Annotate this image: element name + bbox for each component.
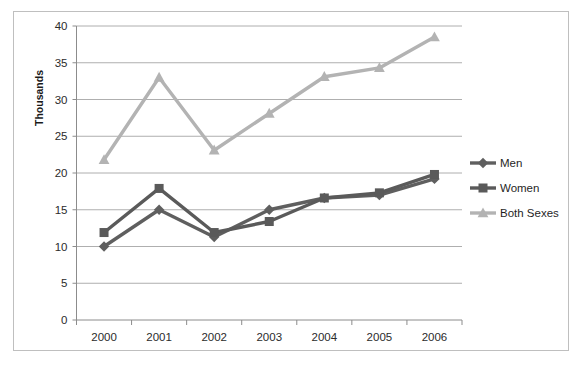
x-axis-tick-labels: 2000200120022003200420052006 — [91, 331, 447, 343]
x-tick-label: 2004 — [312, 331, 338, 343]
gridlines — [77, 26, 463, 283]
data-series — [99, 31, 440, 251]
x-tick-label: 2001 — [146, 331, 172, 343]
series-both-sexes — [99, 31, 440, 164]
y-tick-label: 20 — [55, 167, 68, 179]
y-axis-title-text: Thousands — [33, 70, 45, 126]
legend-label: Women — [500, 182, 539, 194]
series-men — [99, 174, 440, 252]
x-tick-label: 2002 — [201, 331, 227, 343]
y-tick-label: 0 — [61, 314, 67, 326]
legend-item-women[interactable]: Women — [470, 182, 539, 194]
data-point-marker — [154, 72, 165, 82]
data-point-marker — [320, 193, 329, 202]
x-tick-label: 2003 — [256, 331, 282, 343]
x-tick-label: 2006 — [422, 331, 448, 343]
data-point-marker — [375, 188, 384, 197]
data-point-marker — [429, 31, 440, 41]
y-tick-label: 25 — [55, 130, 68, 142]
y-tick-label: 30 — [55, 94, 68, 106]
y-tick-label: 15 — [55, 204, 68, 216]
y-tick-label: 10 — [55, 241, 68, 253]
data-point-marker — [265, 217, 274, 226]
data-point-marker — [155, 184, 164, 193]
data-point-marker — [100, 228, 109, 237]
legend-item-men[interactable]: Men — [470, 157, 522, 169]
y-tick-label: 40 — [55, 20, 68, 32]
legend-label: Men — [500, 157, 522, 169]
y-tick-label: 5 — [61, 277, 67, 289]
chart-container: 0510152025303540 20002001200220032004200… — [0, 0, 584, 365]
data-point-marker — [478, 158, 488, 168]
data-point-marker — [210, 228, 219, 237]
chart-legend: MenWomenBoth Sexes — [470, 157, 559, 219]
data-point-marker — [430, 170, 439, 179]
legend-label: Both Sexes — [500, 207, 559, 219]
x-tick-label: 2005 — [367, 331, 393, 343]
data-point-marker — [479, 184, 488, 193]
y-axis-title: Thousands — [33, 70, 45, 126]
legend-item-both-sexes[interactable]: Both Sexes — [470, 207, 559, 219]
y-tick-label: 35 — [55, 57, 68, 69]
y-axis-tick-labels: 0510152025303540 — [55, 20, 68, 326]
x-tick-label: 2000 — [91, 331, 117, 343]
series-women — [100, 170, 439, 237]
axes — [73, 26, 463, 325]
series-line — [104, 37, 434, 160]
line-chart: 0510152025303540 20002001200220032004200… — [0, 0, 584, 365]
